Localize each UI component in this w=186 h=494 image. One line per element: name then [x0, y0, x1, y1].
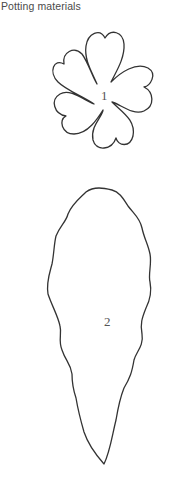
- leaf-template: [47, 188, 150, 464]
- flower-number-label: 1: [101, 88, 108, 104]
- templates-canvas: [0, 0, 186, 494]
- leaf-number-label: 2: [104, 314, 111, 330]
